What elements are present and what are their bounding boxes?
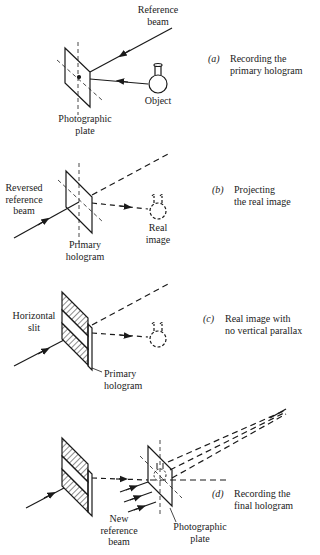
caption-b: (b)Projecting the real image (212, 184, 291, 207)
caption-c-tag: (c) (203, 313, 225, 325)
caption-b-line1: Projecting (234, 184, 275, 195)
new-reference-beam-arrows (120, 482, 156, 512)
caption-d: (d)Recording the final hologram (212, 488, 293, 511)
caption-c: (c)Real image with no vertical parallax (203, 313, 302, 336)
caption-a: (a)Recording the primary hologram (208, 53, 302, 76)
caption-d-line2: final hologram (212, 500, 293, 512)
caption-b-tag: (b) (212, 184, 234, 196)
real-image-flask-icon-c (150, 323, 166, 348)
label-photographic-plate-a: Photographic plate (52, 113, 118, 136)
primary-hologram-c (88, 324, 92, 370)
caption-a-tag: (a) (208, 53, 230, 65)
real-image-flask-icon (150, 195, 166, 220)
flask-object-icon (149, 64, 167, 94)
label-primary-hologram-b: Primary hologram (58, 239, 112, 262)
label-real-image: Real image (140, 222, 176, 245)
caption-a-line2: primary hologram (208, 65, 302, 77)
caption-a-line1: Recording the (230, 53, 286, 64)
label-reference-beam: Reference beam (128, 4, 188, 27)
caption-c-line1: Real image with (225, 313, 291, 324)
label-object: Object (136, 95, 180, 107)
label-new-reference-beam: New reference beam (96, 513, 142, 548)
hologram-diagram (0, 0, 320, 555)
label-horizontal-slit: Horizontal slit (8, 310, 60, 333)
label-photographic-plate-d: Photographic plate (166, 521, 234, 544)
caption-b-line2: the real image (212, 196, 291, 208)
caption-d-line1: Recording the (234, 488, 290, 499)
label-primary-hologram-c: Primary hologram (104, 368, 142, 391)
label-reversed-reference-beam: Reversed reference beam (0, 182, 48, 217)
caption-c-line2: no vertical parallax (203, 325, 302, 337)
reference-beam-arrow (90, 28, 172, 72)
object-beam-arrow (90, 79, 148, 84)
caption-d-tag: (d) (212, 488, 234, 500)
